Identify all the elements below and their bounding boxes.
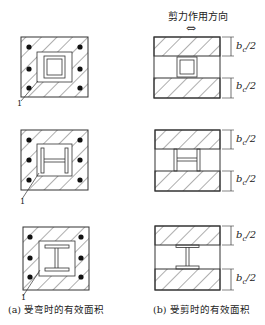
dimension-label: bc/2 bbox=[236, 40, 256, 54]
marker-label: 1 bbox=[21, 293, 26, 302]
diagram-canvas bbox=[0, 0, 265, 325]
flexure-section-i-steel bbox=[23, 227, 89, 296]
dimension-label: bc/2 bbox=[236, 133, 256, 147]
dimension-label: bc/2 bbox=[236, 229, 256, 243]
dimension-label: bc/2 bbox=[236, 173, 256, 187]
flexure-section-box-steel bbox=[21, 37, 88, 101]
caption-flexure: (a) 受弯时的有效面积 bbox=[8, 302, 104, 316]
dimension-label: bc/2 bbox=[236, 272, 256, 286]
shear-section-h-steel bbox=[155, 130, 234, 191]
marker-label: 1 bbox=[17, 99, 22, 108]
flexure-section-h-steel bbox=[21, 130, 88, 199]
shear-section-box-steel bbox=[154, 37, 234, 98]
caption-shear: (b) 受剪时的有效面积 bbox=[153, 302, 250, 316]
dimension-label: bc/2 bbox=[236, 80, 256, 94]
marker-label: 1 bbox=[20, 197, 25, 206]
shear-section-i-steel bbox=[155, 226, 234, 290]
